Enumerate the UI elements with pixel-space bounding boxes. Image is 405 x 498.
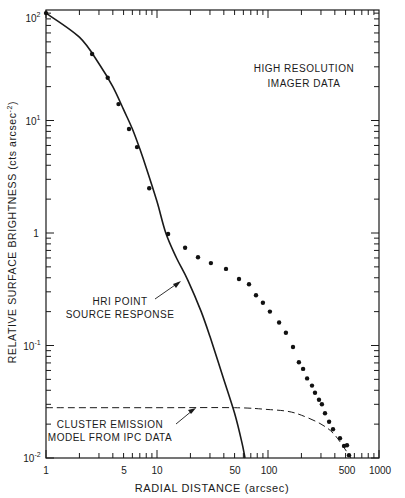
data-point <box>237 277 241 281</box>
label-cluster-line1: CLUSTER EMISSION <box>57 419 163 430</box>
data-point <box>196 255 200 259</box>
y-tick-0.01: 10-2 <box>23 451 40 464</box>
data-point <box>247 282 251 286</box>
y-tick-100: 102 <box>25 11 40 24</box>
y-tick-0.1: 10-1 <box>23 339 40 352</box>
y-tick-1: 1 <box>33 228 39 239</box>
data-point <box>323 411 327 415</box>
data-point <box>166 232 170 236</box>
data-point <box>347 453 351 457</box>
data-point <box>317 398 321 402</box>
y-tick-10: 101 <box>25 114 40 127</box>
label-point-source-line2: SOURCE RESPONSE <box>66 309 175 320</box>
x-tick-100: 100 <box>261 465 278 476</box>
data-point <box>224 267 228 271</box>
data-point <box>338 436 342 440</box>
data-point <box>320 402 324 406</box>
data-point <box>291 345 295 349</box>
data-point <box>284 331 288 335</box>
data-point <box>345 443 349 447</box>
data-point <box>297 360 301 364</box>
x-tick-1: 1 <box>43 465 49 476</box>
data-point <box>44 11 48 15</box>
data-point <box>305 376 309 380</box>
label-cluster-line2: MODEL FROM IPC DATA <box>48 432 172 443</box>
data-point <box>135 145 139 149</box>
data-point <box>331 427 335 431</box>
data-point <box>261 301 265 305</box>
label-hri-data-line1: HIGH RESOLUTION <box>254 63 354 74</box>
data-point <box>106 76 110 80</box>
x-tick-1000: 1000 <box>369 465 392 476</box>
arrow-point-source <box>155 281 181 299</box>
data-point <box>209 261 213 265</box>
y-axis-label: RELATIVE SURFACE BRIGHTNESS (cts arcsec-… <box>6 101 18 363</box>
x-tick-10: 10 <box>151 465 163 476</box>
data-point <box>90 52 94 56</box>
x-tick-50: 50 <box>229 465 241 476</box>
label-point-source-line1: HRI POINT <box>92 296 147 307</box>
x-tick-5: 5 <box>121 465 127 476</box>
data-point <box>147 186 151 190</box>
data-point <box>268 309 272 313</box>
hri-point-source-response-curve <box>46 13 245 458</box>
chart: 1 5 10 50 100 500 1000 102 101 1 10-1 10… <box>0 0 405 498</box>
data-point <box>127 127 131 131</box>
data-point <box>310 383 314 387</box>
x-tick-500: 500 <box>339 465 356 476</box>
arrow-cluster <box>176 408 196 424</box>
data-point <box>313 391 317 395</box>
x-axis-label: RADIAL DISTANCE (arcsec) <box>135 482 289 494</box>
data-point <box>301 367 305 371</box>
data-point <box>116 102 120 106</box>
data-point <box>327 420 331 424</box>
data-point <box>183 246 187 250</box>
data-point <box>254 293 258 297</box>
label-hri-data-line2: IMAGER DATA <box>268 78 341 89</box>
data-point <box>277 320 281 324</box>
